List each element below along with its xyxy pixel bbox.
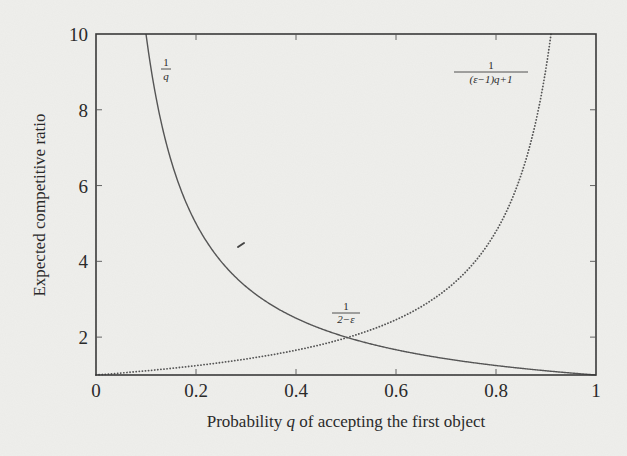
x-tick-label: 1 <box>591 380 601 401</box>
y-axis-label: Expected competitive ratio <box>30 113 49 296</box>
x-tick-label: 0.4 <box>284 380 308 401</box>
annotation-numerator: 1 <box>488 59 494 71</box>
y-tick-label: 2 <box>79 327 89 348</box>
x-tick-label: 0 <box>91 380 101 401</box>
x-tick-label: 0.2 <box>184 380 208 401</box>
annotation-numerator: 1 <box>343 300 349 312</box>
y-tick-label: 4 <box>79 251 89 272</box>
annotation-denominator: 2−ε <box>337 313 355 325</box>
x-tick-label: 0.6 <box>384 380 408 401</box>
line-chart: 00.20.40.60.81 246810 Probability q of a… <box>0 0 627 456</box>
chart-figure: 00.20.40.60.81 246810 Probability q of a… <box>0 0 627 456</box>
annotation-numerator: 1 <box>163 56 169 68</box>
y-tick-label: 8 <box>79 100 89 121</box>
x-axis-label: Probability q of accepting the first obj… <box>207 412 486 431</box>
annotation-denominator: (ε−1)q+1 <box>469 73 512 86</box>
x-tick-label: 0.8 <box>484 380 508 401</box>
y-tick-label: 10 <box>69 24 88 45</box>
annotation-denominator: q <box>163 70 169 82</box>
y-tick-label: 6 <box>79 176 89 197</box>
